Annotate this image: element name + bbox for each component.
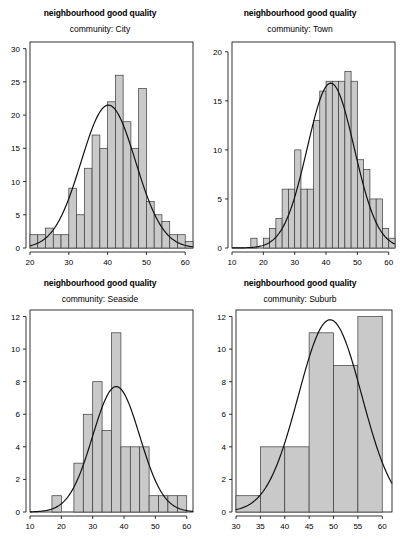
svg-text:60: 60 (181, 258, 190, 267)
svg-text:6: 6 (222, 410, 227, 419)
svg-text:20: 20 (26, 258, 35, 267)
svg-text:45: 45 (305, 522, 314, 531)
svg-text:10: 10 (11, 178, 20, 187)
svg-text:55: 55 (353, 522, 362, 531)
panel-seaside: neighbourhood good quality community: Se… (0, 270, 200, 539)
svg-text:10: 10 (26, 522, 35, 531)
svg-text:40: 40 (103, 258, 112, 267)
svg-text:50: 50 (151, 522, 160, 531)
svg-text:40: 40 (120, 522, 129, 531)
panel-town: neighbourhood good quality community: To… (200, 0, 400, 269)
chart-svg-town: 05101520102030405060 (200, 0, 400, 269)
svg-text:15: 15 (11, 144, 20, 153)
svg-text:5: 5 (16, 211, 21, 220)
svg-text:25: 25 (11, 78, 20, 87)
svg-text:30: 30 (11, 45, 20, 54)
svg-text:20: 20 (259, 258, 268, 267)
histogram-panel-grid: neighbourhood good quality community: Ci… (0, 0, 400, 539)
svg-text:30: 30 (290, 258, 299, 267)
panel-suburb: neighbourhood good quality community: Su… (200, 270, 400, 539)
svg-text:50: 50 (329, 522, 338, 531)
svg-text:60: 60 (384, 258, 393, 267)
svg-text:30: 30 (64, 258, 73, 267)
svg-text:20: 20 (11, 111, 20, 120)
svg-text:0: 0 (16, 508, 21, 517)
svg-text:30: 30 (88, 522, 97, 531)
chart-svg-city: 0510152025302030405060 (0, 0, 200, 269)
svg-text:5: 5 (218, 195, 223, 204)
svg-text:40: 40 (322, 258, 331, 267)
svg-text:2: 2 (222, 475, 227, 484)
svg-text:0: 0 (218, 244, 223, 253)
svg-text:2: 2 (16, 475, 21, 484)
svg-text:60: 60 (378, 522, 387, 531)
svg-text:50: 50 (142, 258, 151, 267)
svg-text:10: 10 (217, 345, 226, 354)
svg-text:4: 4 (16, 443, 21, 452)
svg-text:30: 30 (232, 522, 241, 531)
svg-text:10: 10 (11, 345, 20, 354)
svg-text:20: 20 (57, 522, 66, 531)
svg-text:50: 50 (353, 258, 362, 267)
svg-text:35: 35 (256, 522, 265, 531)
svg-text:15: 15 (213, 97, 222, 106)
svg-text:12: 12 (11, 313, 20, 322)
svg-text:40: 40 (280, 522, 289, 531)
svg-text:0: 0 (222, 508, 227, 517)
chart-svg-suburb: 02468101230354045505560 (200, 270, 400, 539)
svg-text:10: 10 (228, 258, 237, 267)
svg-text:4: 4 (222, 443, 227, 452)
svg-text:60: 60 (182, 522, 191, 531)
chart-svg-seaside: 024681012102030405060 (0, 270, 200, 539)
svg-text:10: 10 (213, 146, 222, 155)
svg-text:20: 20 (213, 48, 222, 57)
svg-text:6: 6 (16, 410, 21, 419)
svg-text:0: 0 (16, 244, 21, 253)
panel-city: neighbourhood good quality community: Ci… (0, 0, 200, 269)
svg-text:12: 12 (217, 313, 226, 322)
svg-text:8: 8 (16, 378, 21, 387)
svg-text:8: 8 (222, 378, 227, 387)
